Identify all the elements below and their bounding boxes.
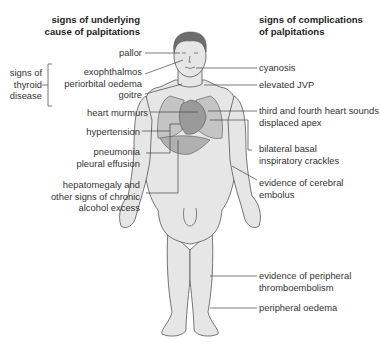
label-elevated-jvp-text: elevated JVP	[259, 79, 314, 91]
label-heart-sounds-line1: third and fourth heart sounds	[259, 105, 379, 117]
thyroid-group-line2: thyroid	[2, 79, 42, 91]
label-peripheral-thromboembolism-line2: thromboembolism	[259, 282, 351, 294]
label-crackles-line2: inspiratory crackles	[259, 155, 339, 167]
label-cerebral-embolus-line1: evidence of cerebral	[259, 177, 343, 189]
label-hypertension: hypertension	[40, 126, 140, 138]
label-elevated-jvp: elevated JVP	[259, 79, 314, 91]
label-crackles: bilateral basal inspiratory crackles	[259, 143, 339, 166]
label-hepatomegaly-line1: hepatomegaly and	[20, 179, 140, 191]
label-heart-murmurs: heart murmurs	[40, 107, 148, 119]
left-heading-line1: signs of underlying	[40, 14, 140, 26]
left-heading: signs of underlying cause of palpitation…	[40, 14, 140, 38]
label-pneumonia-line2: pleural effusion	[40, 158, 140, 170]
label-cyanosis: cyanosis	[259, 62, 295, 74]
label-hypertension-text: hypertension	[40, 126, 140, 138]
label-peripheral-oedema-text: peripheral oedema	[259, 302, 337, 314]
left-heading-line2: cause of palpitations	[40, 26, 140, 38]
right-heading-line2: of palpitations	[259, 26, 363, 38]
label-goitre: goitre	[40, 89, 142, 101]
label-exophthalmos-line2: periorbital oedema	[40, 78, 142, 90]
label-pneumonia-line1: pneumonia	[40, 146, 140, 158]
label-peripheral-thromboembolism-line1: evidence of peripheral	[259, 270, 351, 282]
label-cerebral-embolus-line2: embolus	[259, 189, 343, 201]
thyroid-group-label: signs of thyroid disease	[2, 67, 42, 102]
label-heart-murmurs-text: heart murmurs	[40, 107, 148, 119]
thyroid-group-line3: disease	[2, 90, 42, 102]
label-cyanosis-text: cyanosis	[259, 62, 295, 74]
label-pallor: pallor	[40, 47, 142, 59]
label-pallor-text: pallor	[40, 47, 142, 59]
right-heading-line1: signs of complications	[259, 14, 363, 26]
label-goitre-text: goitre	[40, 89, 142, 101]
label-peripheral-thromboembolism: evidence of peripheral thromboembolism	[259, 270, 351, 293]
label-hepatomegaly-line2: other signs of chronic	[20, 191, 140, 203]
label-exophthalmos-line1: exophthalmos	[40, 66, 142, 78]
label-cerebral-embolus: evidence of cerebral embolus	[259, 177, 343, 200]
label-hepatomegaly-line3: alcohol excess	[20, 202, 140, 214]
label-crackles-line1: bilateral basal	[259, 143, 339, 155]
label-hepatomegaly: hepatomegaly and other signs of chronic …	[20, 179, 140, 214]
label-pneumonia: pneumonia pleural effusion	[40, 146, 140, 169]
label-heart-sounds: third and fourth heart sounds displaced …	[259, 105, 379, 128]
label-exophthalmos: exophthalmos periorbital oedema	[40, 66, 142, 89]
thyroid-group-line1: signs of	[2, 67, 42, 79]
label-peripheral-oedema: peripheral oedema	[259, 302, 337, 314]
label-heart-sounds-line2: displaced apex	[259, 117, 379, 129]
right-heading: signs of complications of palpitations	[259, 14, 363, 38]
